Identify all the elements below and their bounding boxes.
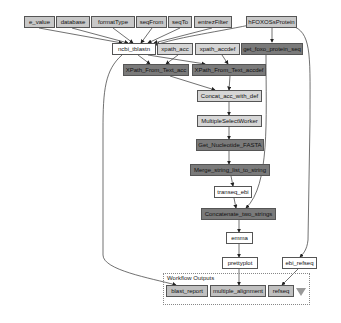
processor-get-nucleotide-fasta[interactable]: Get_Nucleotide_FASTA xyxy=(196,139,264,151)
processor-concatenate-two-strings[interactable]: Concatenate_two_strings xyxy=(201,208,276,220)
input-e-value[interactable]: e_value xyxy=(24,16,55,28)
processor-emma[interactable]: emma xyxy=(226,232,253,244)
processor-ebi-refseq[interactable]: ebi_refseq xyxy=(282,257,317,269)
output-refseq[interactable]: refseq xyxy=(268,285,294,297)
workflow-diagram: e_value database formatType seqFrom seqT… xyxy=(0,0,341,323)
input-seqto[interactable]: seqTo xyxy=(168,16,192,28)
processor-concat-acc-with-def[interactable]: Concat_acc_with_def xyxy=(197,90,262,102)
input-database[interactable]: database xyxy=(56,16,90,28)
processor-get-foxo-protein-seq[interactable]: get_foxo_protein_seq xyxy=(241,43,303,55)
output-blast-report[interactable]: blast_report xyxy=(166,285,208,297)
processor-xpath-from-text-acc[interactable]: XPath_From_Text_acc xyxy=(123,64,189,76)
input-entrezfilter[interactable]: entrezFilter xyxy=(194,16,232,28)
processor-xpath-acc[interactable]: xpath_acc xyxy=(157,43,193,55)
processor-transeq-ebi[interactable]: transeq_ebi xyxy=(214,186,252,198)
input-hfoxossprotein[interactable]: hFOXOSsProtein xyxy=(246,16,297,28)
processor-merge-string-list-to-string[interactable]: Merge_string_list_to_string xyxy=(190,164,270,176)
workflow-outputs-label: Workflow Outputs xyxy=(167,275,214,281)
collapse-triangle-icon[interactable] xyxy=(296,288,306,296)
processor-multipleselectworker[interactable]: MultipleSelectWorker xyxy=(197,115,262,127)
input-seqfrom[interactable]: seqFrom xyxy=(136,16,167,28)
processor-prettyplot[interactable]: prettyplot xyxy=(222,257,258,269)
output-multiple-alignment[interactable]: multiple_alignment xyxy=(210,285,266,297)
processor-ncbi-tblastn[interactable]: ncbi_tblastn xyxy=(112,43,156,55)
input-formattype[interactable]: formatType xyxy=(91,16,135,28)
processor-xpath-from-text-accdef[interactable]: XPath_From_Text_accdef xyxy=(192,64,266,76)
processor-xpath-accdef[interactable]: xpath_accdef xyxy=(195,43,240,55)
